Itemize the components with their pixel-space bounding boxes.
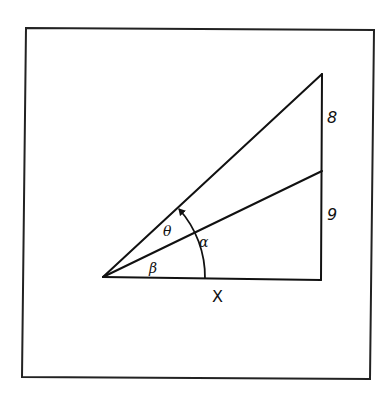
base-label: X xyxy=(212,287,223,306)
triangle-angle-diagram: 8 9 X θ α β xyxy=(0,0,390,395)
lower-segment-label: 9 xyxy=(327,205,337,224)
upper-segment-label: 8 xyxy=(327,108,337,127)
alpha-label: α xyxy=(199,234,209,250)
base-line xyxy=(103,277,321,280)
lower-ray xyxy=(103,171,322,277)
theta-label: θ xyxy=(163,223,172,239)
vertical-side xyxy=(321,74,322,280)
beta-label: β xyxy=(148,260,157,276)
upper-ray xyxy=(103,74,322,277)
